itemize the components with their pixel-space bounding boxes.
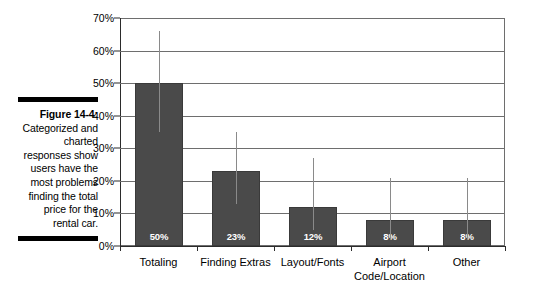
x-tick-mark [274,246,275,251]
y-tick-label: 70% [68,12,114,24]
x-axis-label: Airport Code/Location [351,255,428,283]
bar-value-label: 12% [290,231,336,242]
bar-chart: 70%60%50%40%30%20%10%0% 50%23%12%8%8% To… [0,0,535,297]
bar-value-label: 50% [136,231,182,242]
error-bar [236,132,237,204]
y-tick-mark [114,50,120,51]
x-tick-mark [197,246,198,251]
error-bar [159,31,160,132]
x-axis-label: Other [428,255,505,269]
x-tick-mark [505,246,506,251]
y-tick-label: 10% [68,207,114,219]
y-tick-label: 40% [68,110,114,122]
y-tick-mark [114,83,120,84]
figure-page: Figure 14-4: Categorized and charted res… [0,0,535,297]
x-axis-line [120,246,505,247]
error-bar [390,178,391,240]
x-tick-mark [120,246,121,251]
bar-value-label: 23% [213,231,259,242]
y-tick-label: 60% [68,45,114,57]
error-bar [467,178,468,240]
x-tick-mark [351,246,352,251]
y-tick-label: 30% [68,142,114,154]
y-tick-label: 50% [68,77,114,89]
y-tick-mark [114,115,120,116]
x-tick-mark [428,246,429,251]
y-tick-label: 0% [68,240,114,252]
y-tick-mark [114,148,120,149]
y-tick-mark [114,213,120,214]
x-axis-label: Finding Extras [197,255,274,269]
y-tick-label: 20% [68,175,114,187]
y-tick-mark [114,18,120,19]
error-bar [313,158,314,230]
x-axis-label: Totaling [120,255,197,269]
y-tick-mark [114,180,120,181]
x-axis-label: Layout/Fonts [274,255,351,269]
gridline [120,51,505,52]
